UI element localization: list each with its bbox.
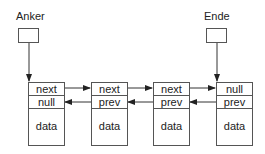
list-node-2: next prev data: [91, 82, 128, 146]
node-next-field: next: [29, 83, 64, 96]
node-next-field: next: [154, 83, 189, 96]
tail-pointer-label: Ende: [204, 10, 230, 22]
head-pointer-box: [18, 28, 39, 43]
list-node-4: null prev data: [216, 82, 253, 146]
node-data-field: data: [217, 109, 252, 145]
tail-pointer-box: [206, 28, 227, 43]
list-node-3: next prev data: [153, 82, 190, 146]
node-prev-field: prev: [92, 96, 127, 109]
list-node-1: next null data: [28, 82, 65, 146]
node-data-field: data: [92, 109, 127, 145]
head-pointer-label: Anker: [16, 10, 45, 22]
node-next-field: null: [217, 83, 252, 96]
node-prev-field: prev: [154, 96, 189, 109]
node-data-field: data: [154, 109, 189, 145]
node-next-field: next: [92, 83, 127, 96]
node-prev-field: prev: [217, 96, 252, 109]
node-prev-field: null: [29, 96, 64, 109]
node-data-field: data: [29, 109, 64, 145]
